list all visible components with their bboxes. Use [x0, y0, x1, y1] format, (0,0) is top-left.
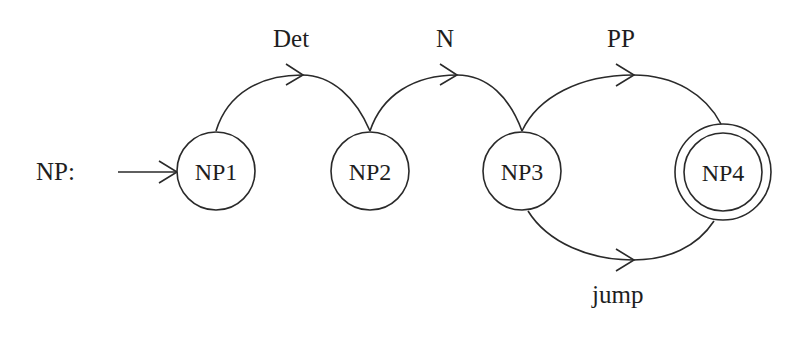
edge-label-det: Det — [273, 25, 309, 52]
node-np3: NP3 — [483, 132, 561, 210]
node-label-np2: NP2 — [349, 159, 392, 185]
edge-label-jump: jump — [591, 281, 643, 308]
edge-jump: jump — [528, 211, 714, 308]
node-label-np4: NP4 — [702, 160, 745, 186]
node-np4-final: NP4 — [675, 124, 771, 220]
edge-label-n: N — [436, 25, 454, 52]
atn-diagram: NP: Det N PP jump NP1 NP2 NP3 — [0, 0, 807, 348]
node-label-np1: NP1 — [195, 159, 238, 185]
edge-det: Det — [216, 25, 370, 131]
edge-label-pp: PP — [607, 25, 635, 52]
node-np1: NP1 — [177, 132, 255, 210]
node-label-np3: NP3 — [501, 159, 544, 185]
node-np2: NP2 — [331, 132, 409, 210]
network-label: NP: — [36, 158, 75, 185]
edge-pp: PP — [522, 25, 721, 131]
edge-n: N — [370, 25, 522, 131]
entry-arrow-icon — [118, 161, 177, 183]
